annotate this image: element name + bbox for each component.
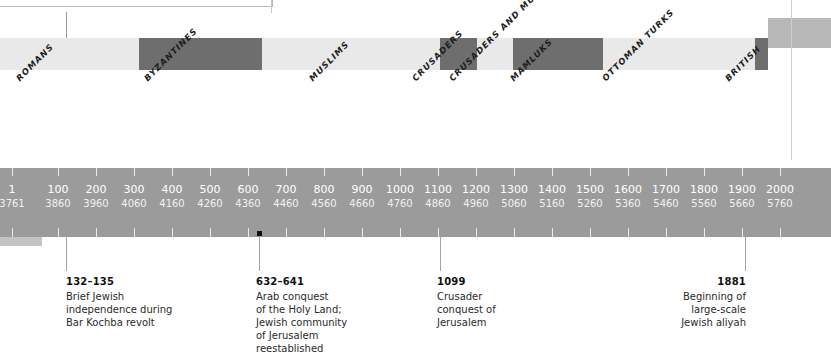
tick-mark-bottom bbox=[248, 228, 249, 237]
tick-mark-bottom bbox=[438, 228, 439, 237]
tick-mark-bottom bbox=[58, 228, 59, 237]
annotation-leader-line bbox=[66, 237, 67, 271]
annotation-leader-line bbox=[745, 237, 746, 271]
tick-mark-top bbox=[704, 168, 705, 176]
tick-mark-top bbox=[476, 168, 477, 176]
cropped-panel-corner-tick bbox=[271, 0, 272, 13]
tick-mark-bottom bbox=[134, 228, 135, 237]
tick-mark-bottom bbox=[12, 228, 13, 237]
tick-mark-bottom bbox=[514, 228, 515, 237]
tick-mark-bottom bbox=[400, 228, 401, 237]
annotation-text: Beginning of large-scale Jewish aliyah bbox=[681, 291, 746, 328]
tick-mark-bottom bbox=[172, 228, 173, 237]
annotation-leader-line bbox=[259, 237, 260, 271]
tick-mark-bottom bbox=[780, 228, 781, 237]
tick-mark-top bbox=[400, 168, 401, 176]
tick-mark-bottom bbox=[362, 228, 363, 237]
annotation-year: 1881 bbox=[606, 275, 746, 288]
tick-mark-top bbox=[552, 168, 553, 176]
tick-mark-top bbox=[58, 168, 59, 176]
annotation-text: Crusader conquest of Jerusalem bbox=[437, 291, 496, 328]
tick-mark-bottom bbox=[742, 228, 743, 237]
tick-mark-top bbox=[666, 168, 667, 176]
tick-mark-bottom bbox=[628, 228, 629, 237]
right-guide-rule bbox=[791, 0, 792, 160]
annotation-note: 1099Crusader conquest of Jerusalem bbox=[437, 275, 587, 329]
tick-mark-top bbox=[628, 168, 629, 176]
annotation-text: Arab conquest of the Holy Land; Jewish c… bbox=[256, 291, 347, 353]
tick-mark-top bbox=[362, 168, 363, 176]
tick-mark-top bbox=[172, 168, 173, 176]
tick-label-hebrew: 5760 bbox=[752, 198, 808, 210]
annotation-text: Brief Jewish independence during Bar Koc… bbox=[66, 291, 172, 328]
annotation-year: 132–135 bbox=[66, 275, 216, 288]
romans-era-leader-line bbox=[66, 12, 67, 38]
tick-label-gregorian: 2000 bbox=[752, 184, 808, 196]
tick-mark-top bbox=[286, 168, 287, 176]
tick-mark-bottom bbox=[96, 228, 97, 237]
annotation-year: 1099 bbox=[437, 275, 587, 288]
tick-mark-top bbox=[438, 168, 439, 176]
tick-mark-top bbox=[514, 168, 515, 176]
tick-mark-bottom bbox=[704, 228, 705, 237]
annotation-note: 632–641Arab conquest of the Holy Land; J… bbox=[256, 275, 406, 353]
timeline-left-tab bbox=[0, 237, 42, 246]
annotation-note: 132–135Brief Jewish independence during … bbox=[66, 275, 216, 329]
tick-label: 20005760 bbox=[752, 184, 808, 210]
tick-mark-bottom bbox=[666, 228, 667, 237]
annotation-leader-line bbox=[440, 237, 441, 271]
cropped-panel-outline bbox=[0, 0, 273, 7]
tick-mark-bottom bbox=[210, 228, 211, 237]
timeline-figure: ROMANSBYZANTINESMUSLIMSCRUSADERSCRUSADER… bbox=[0, 0, 831, 353]
annotation-note: 1881Beginning of large-scale Jewish aliy… bbox=[606, 275, 746, 329]
tick-mark-top bbox=[742, 168, 743, 176]
tick-mark-bottom bbox=[286, 228, 287, 237]
tick-mark-bottom bbox=[552, 228, 553, 237]
annotation-point-marker bbox=[257, 231, 262, 236]
tick-mark-top bbox=[12, 168, 13, 176]
tick-mark-top bbox=[210, 168, 211, 176]
era-segment bbox=[0, 38, 139, 70]
tick-mark-bottom bbox=[476, 228, 477, 237]
modern-era-block bbox=[768, 18, 831, 48]
tick-mark-top bbox=[324, 168, 325, 176]
tick-mark-top bbox=[134, 168, 135, 176]
tick-mark-bottom bbox=[590, 228, 591, 237]
tick-mark-top bbox=[780, 168, 781, 176]
tick-mark-bottom bbox=[324, 228, 325, 237]
tick-mark-top bbox=[590, 168, 591, 176]
era-segment bbox=[262, 38, 440, 70]
tick-mark-top bbox=[96, 168, 97, 176]
annotation-year: 632–641 bbox=[256, 275, 406, 288]
tick-mark-top bbox=[248, 168, 249, 176]
